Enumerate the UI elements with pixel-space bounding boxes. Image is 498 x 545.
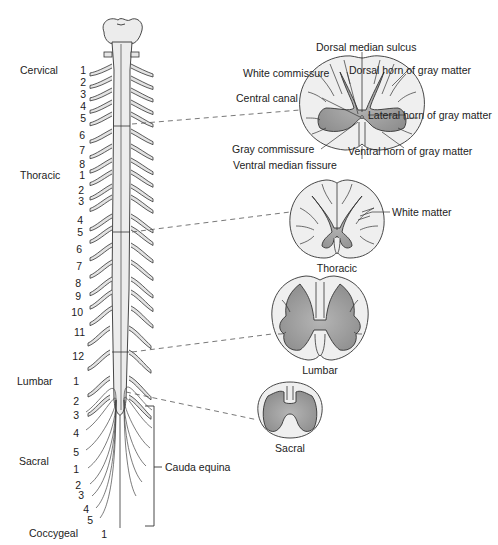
label-ventral-median-fissure: Ventral median fissure [233,159,337,171]
sacral-cross-section [258,382,322,438]
segment-number: 3 [70,88,86,100]
segment-number: 4 [70,100,86,112]
label-central-canal: Central canal [236,92,298,104]
spinal-cord-diagram: Cervical Thoracic Lumbar Sacral Coccygea… [0,0,498,545]
segment-number: 4 [63,427,79,439]
segment-number: 3 [63,409,79,421]
region-label-thoracic: Thoracic [20,169,60,181]
segment-number: 9 [65,290,81,302]
region-label-cervical: Cervical [20,64,58,76]
label-dorsal-median-sulcus: Dorsal median sulcus [316,41,416,53]
label-gray-commissure: Gray commissure [232,143,314,155]
label-lateral-horn: Lateral horn of gray matter [368,109,492,121]
cauda-equina-label: Cauda equina [165,461,230,473]
region-label-coccygeal: Coccygeal [29,527,78,539]
segment-number: 10 [67,306,83,318]
segment-number: 11 [69,326,85,338]
label-white-commissure: White commissure [243,67,329,79]
segment-number: 6 [69,129,85,141]
brainstem [103,19,142,44]
segment-number: 1 [70,64,86,76]
caption-thoracic: Thoracic [297,262,377,274]
label-ventral-horn: Ventral horn of gray matter [348,145,472,157]
segment-number: 5 [70,112,86,124]
segment-number: 12 [68,350,84,362]
region-label-sacral: Sacral [19,455,49,467]
segment-number: 5 [63,446,79,458]
segment-number: 5 [67,226,83,238]
segment-number: 8 [65,277,81,289]
segment-number: 2 [63,395,79,407]
lumbar-cross-section [272,276,368,360]
segment-number: 1 [69,169,85,181]
segment-number: 3 [68,195,84,207]
label-white-matter: White matter [392,206,452,218]
caption-lumbar: Lumbar [280,364,360,376]
segment-number: 2 [70,76,86,88]
spinal-cord [112,42,132,528]
thoracic-cross-section [290,180,390,258]
segment-number: 3 [68,489,84,501]
segment-number: 4 [67,214,83,226]
segment-number: 1 [91,528,107,540]
segment-number: 7 [66,260,82,272]
segment-number: 1 [63,375,79,387]
label-dorsal-horn: Dorsal horn of gray matter [349,64,471,76]
region-label-lumbar: Lumbar [17,375,53,387]
caption-sacral: Sacral [250,442,330,454]
segment-number: 5 [77,514,93,526]
segment-number: 6 [66,243,82,255]
segment-number: 1 [63,463,79,475]
segment-number: 7 [69,144,85,156]
